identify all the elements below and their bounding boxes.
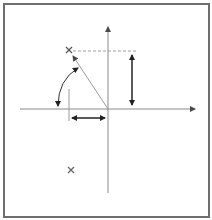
diagram-canvas bbox=[0, 0, 212, 220]
point-marker-lower bbox=[68, 167, 74, 173]
angle-arc bbox=[58, 68, 78, 106]
vector-line bbox=[73, 56, 108, 109]
point-marker-upper bbox=[66, 47, 72, 53]
